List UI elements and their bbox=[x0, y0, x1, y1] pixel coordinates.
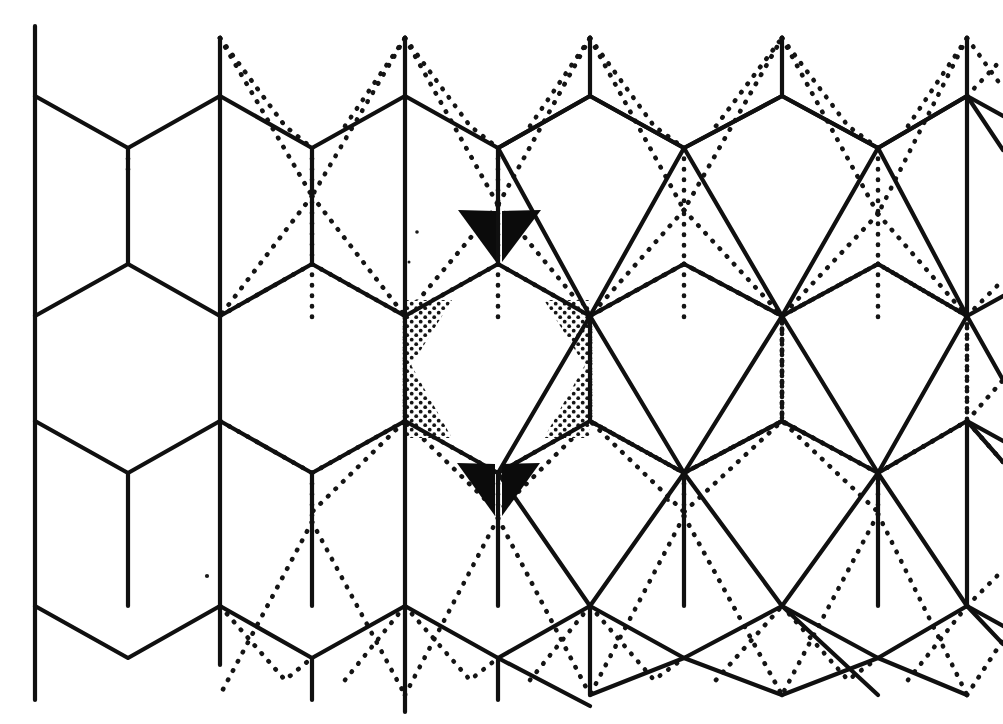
figure-background bbox=[0, 0, 1003, 724]
lattice-transformation-figure bbox=[0, 0, 1003, 724]
speck-a bbox=[205, 574, 209, 578]
speck-c bbox=[666, 498, 670, 502]
speck-b bbox=[415, 230, 419, 234]
figure-canvas bbox=[0, 0, 1003, 724]
speck-d bbox=[408, 261, 411, 264]
